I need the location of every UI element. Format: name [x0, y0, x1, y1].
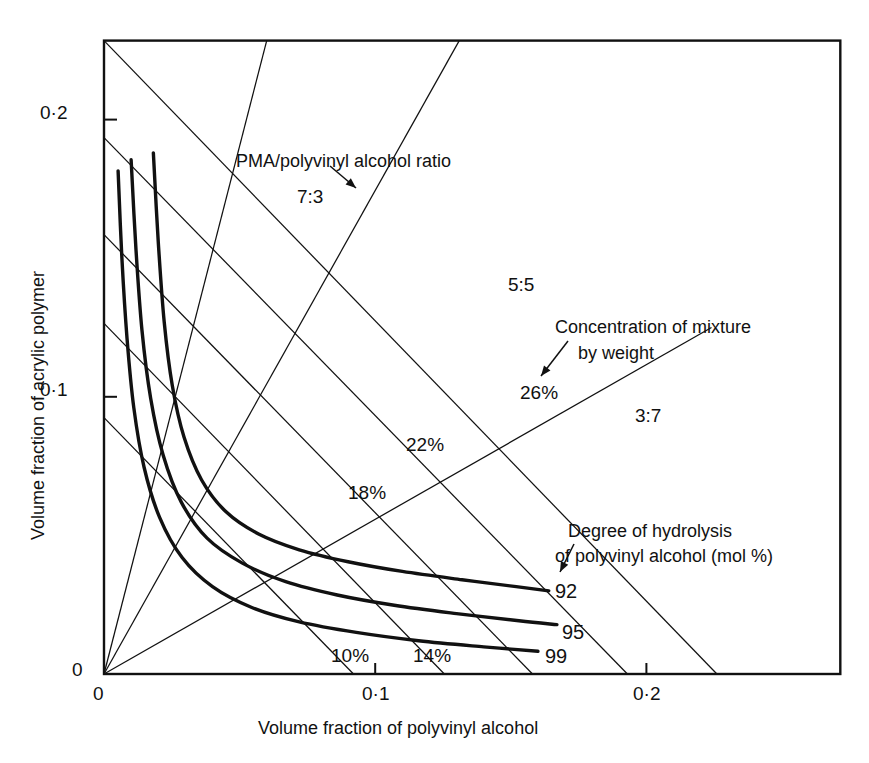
leader-lines: [330, 166, 574, 572]
ratio-label-7-3: 7:3: [297, 186, 323, 208]
concentration-caption-arrowhead: [541, 365, 550, 376]
concentration-label-10: 10%: [331, 645, 369, 667]
concentration-label-26: 26%: [520, 382, 558, 404]
hydrolysis-caption-line1: Degree of hydrolysis: [568, 521, 732, 542]
ratio-label-5-5: 5:5: [508, 274, 534, 296]
figure-root: Volume fraction of acrylic polymer Volum…: [0, 0, 869, 763]
hydrolysis-caption-line2: of polyvinyl alcohol (mol %): [555, 546, 773, 567]
axis-frame: [104, 41, 840, 674]
y-axis-title: Volume fraction of acrylic polymer: [28, 271, 49, 540]
concentration-caption-line1: Concentration of mixture: [555, 317, 751, 338]
y-tick-label-0: 0: [72, 659, 83, 681]
concentration-caption-line2: by weight: [578, 343, 654, 364]
hydrolysis-curve-92: [153, 153, 548, 591]
x-tick-label-0: 0: [93, 683, 104, 705]
concentration-line-14: [104, 323, 444, 674]
concentration-label-18: 18%: [348, 482, 386, 504]
y-tick-label-0.2: 0·2: [40, 102, 67, 124]
x-tick-label-0.1: 0·1: [362, 683, 389, 705]
curve-label-95: 95: [562, 621, 584, 645]
concentration-label-22: 22%: [406, 434, 444, 456]
curve-label-99: 99: [545, 645, 567, 669]
concentration-label-14: 14%: [413, 645, 451, 667]
hydrolysis-curves: [118, 153, 557, 651]
hydrolysis-curve-95: [131, 160, 557, 625]
plot-frame: [104, 41, 840, 674]
curve-label-92: 92: [555, 580, 577, 604]
x-tick-label-0.2: 0·2: [633, 683, 660, 705]
y-tick-label-0.1: 0·1: [40, 379, 67, 401]
hydrolysis-curve-99: [118, 171, 538, 651]
ratio-label-3-7: 3:7: [635, 405, 661, 427]
ratio-line-3-7: [104, 328, 711, 675]
ratio-caption: PMA/polyvinyl alcohol ratio: [236, 151, 451, 172]
x-axis-title: Volume fraction of polyvinyl alcohol: [258, 718, 538, 739]
concentration-line-18: [104, 235, 532, 674]
